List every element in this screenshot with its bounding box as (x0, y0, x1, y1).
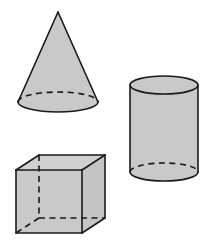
cube-shape (16, 155, 105, 233)
geometric-solids-figure (0, 0, 208, 248)
solids-canvas (0, 0, 208, 248)
cube-front-face (16, 170, 82, 233)
cylinder-shape (130, 76, 198, 181)
cylinder-body-fill (130, 85, 198, 181)
